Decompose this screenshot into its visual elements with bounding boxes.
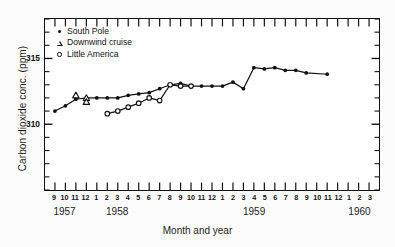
x-tick-label: 6 — [147, 193, 151, 202]
x-tick-label: 9 — [178, 193, 182, 202]
legend-item-downwind-cruise: Downwind cruise — [52, 37, 132, 48]
x-axis-title: Month and year — [0, 225, 395, 236]
x-tick-label: 9 — [52, 193, 56, 202]
filled-circle-icon — [52, 30, 67, 33]
x-axis-month-labels: 9101112123456789101112123456789101112123 — [0, 193, 395, 206]
x-tick-label: 6 — [273, 193, 277, 202]
legend-item-south-pole: South Pole — [52, 26, 132, 37]
x-tick-label: 11 — [198, 193, 206, 202]
x-tick-label: 10 — [313, 193, 321, 202]
open-triangle-icon — [52, 41, 67, 46]
x-tick-label: 12 — [334, 193, 342, 202]
x-tick-label: 3 — [368, 193, 372, 202]
x-tick-label: 12 — [208, 193, 216, 202]
x-tick-label: 1 — [347, 193, 351, 202]
x-tick-label: 5 — [263, 193, 267, 202]
legend-label: South Pole — [67, 26, 109, 37]
chart-figure: Carbon dioxide conc. (ppm) South Pole Do… — [0, 0, 395, 247]
x-tick-label: 10 — [187, 193, 195, 202]
x-tick-label: 3 — [115, 193, 119, 202]
x-axis-year-label: 1958 — [106, 206, 128, 217]
x-tick-label: 3 — [242, 193, 246, 202]
x-axis-year-label: 1959 — [243, 206, 265, 217]
x-tick-label: 4 — [126, 193, 130, 202]
legend: South Pole Downwind cruise Little Americ… — [52, 26, 132, 60]
x-tick-label: 12 — [82, 193, 90, 202]
y-axis-title: Carbon dioxide conc. (ppm) — [17, 24, 28, 194]
x-axis-year-label: 1957 — [53, 206, 75, 217]
x-tick-label: 7 — [157, 193, 161, 202]
x-axis-year-labels: 1957195819591960 — [0, 206, 395, 220]
x-tick-label: 1 — [94, 193, 98, 202]
x-tick-label: 5 — [136, 193, 140, 202]
x-tick-label: 10 — [61, 193, 69, 202]
x-tick-label: 1 — [221, 193, 225, 202]
x-tick-label: 8 — [168, 193, 172, 202]
legend-label: Little America — [67, 49, 119, 60]
x-tick-label: 2 — [357, 193, 361, 202]
x-tick-label: 4 — [252, 193, 256, 202]
open-circle-icon — [52, 52, 67, 56]
x-tick-label: 7 — [284, 193, 288, 202]
x-tick-label: 2 — [105, 193, 109, 202]
x-tick-label: 2 — [231, 193, 235, 202]
legend-item-little-america: Little America — [52, 49, 132, 60]
y-tick-label: 310 — [20, 119, 40, 129]
y-tick-label: 315 — [20, 53, 40, 63]
x-tick-label: 11 — [324, 193, 332, 202]
x-tick-label: 11 — [71, 193, 79, 202]
x-tick-label: 8 — [294, 193, 298, 202]
legend-label: Downwind cruise — [67, 37, 132, 48]
x-tick-label: 9 — [305, 193, 309, 202]
x-axis-year-label: 1960 — [348, 206, 370, 217]
